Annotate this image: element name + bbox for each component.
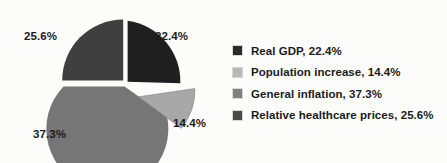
pie-chart-plot-area: 25.6% 22.4% 14.4% 37.3%	[0, 0, 228, 163]
legend-item-relative-healthcare-prices[interactable]: Relative healthcare prices, 25.6%	[232, 105, 444, 127]
pie-data-label-real-gdp: 22.4%	[155, 30, 188, 42]
legend-item-label: Real GDP, 22.4%	[251, 45, 342, 57]
chart-legend: Real GDP, 22.4% Population increase, 14.…	[232, 40, 444, 126]
pie-data-label-population-increase: 14.4%	[173, 117, 206, 129]
pie-slice-relative-healthcare-prices[interactable]	[62, 20, 123, 81]
legend-swatch-icon	[232, 67, 243, 78]
pie-data-label-general-inflation: 37.3%	[33, 128, 66, 140]
legend-item-population-increase[interactable]: Population increase, 14.4%	[232, 62, 444, 84]
pie-chart-screenshot: 25.6% 22.4% 14.4% 37.3% Real GDP, 22.4% …	[0, 0, 447, 163]
legend-item-label: Population increase, 14.4%	[251, 66, 401, 78]
legend-item-label: General inflation, 37.3%	[251, 88, 382, 100]
legend-item-general-inflation[interactable]: General inflation, 37.3%	[232, 83, 444, 105]
pie-data-label-relative-healthcare-prices: 25.6%	[24, 30, 57, 42]
legend-swatch-icon	[232, 88, 243, 99]
legend-swatch-icon	[232, 45, 243, 56]
legend-item-label: Relative healthcare prices, 25.6%	[251, 109, 434, 121]
legend-item-real-gdp[interactable]: Real GDP, 22.4%	[232, 40, 444, 62]
legend-swatch-icon	[232, 110, 243, 121]
